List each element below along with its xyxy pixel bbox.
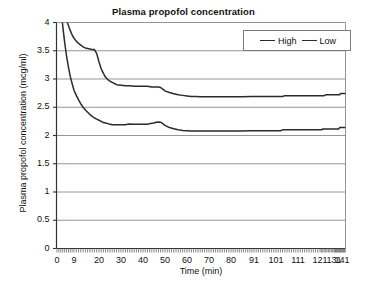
x-tick-marks <box>57 249 345 253</box>
x-tick-label: 91 <box>242 255 266 265</box>
y-tick-label: 2.5 <box>28 101 50 111</box>
x-tick-label: 80 <box>219 255 243 265</box>
chart-title: Plasma propofol concentration <box>0 6 367 17</box>
x-tick-label: 141 <box>330 255 354 265</box>
x-tick-label: 20 <box>87 255 111 265</box>
y-tick-label: 1 <box>28 186 50 196</box>
y-tick-label: 0 <box>28 243 50 253</box>
legend-line-icon <box>302 40 317 41</box>
x-tick-label: 40 <box>131 255 155 265</box>
x-tick-label: 70 <box>197 255 221 265</box>
x-tick-label: 101 <box>264 255 288 265</box>
y-tick-label: 3.5 <box>28 45 50 55</box>
chart-figure: Plasma propofol concentration Plasma pro… <box>0 0 367 283</box>
y-tick-label: 4 <box>28 17 50 27</box>
y-tick-label: 0.5 <box>28 214 50 224</box>
x-tick-label: 9 <box>62 255 86 265</box>
legend-entry-high[interactable]: High <box>260 36 297 46</box>
x-axis-label: Time (min) <box>56 266 346 276</box>
y-axis-label: Plasma propofol concentration (mcg/ml) <box>18 18 28 248</box>
x-tick-label: 111 <box>286 255 310 265</box>
y-tick-label: 2 <box>28 130 50 140</box>
x-tick-label: 60 <box>175 255 199 265</box>
legend-entry-low[interactable]: Low <box>302 36 337 46</box>
legend-label: Low <box>320 36 337 46</box>
legend-line-icon <box>260 40 275 41</box>
x-tick-label: 30 <box>109 255 133 265</box>
y-tick-label: 3 <box>28 73 50 83</box>
chart-legend: HighLow <box>243 30 351 51</box>
x-tick-label: 50 <box>153 255 177 265</box>
legend-label: High <box>278 36 297 46</box>
y-tick-label: 1.5 <box>28 158 50 168</box>
